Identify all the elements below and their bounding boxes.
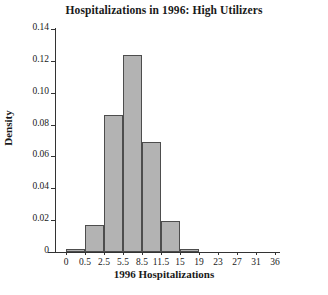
x-axis-tick-mark	[85, 252, 86, 255]
x-axis-tick-label: 23	[213, 257, 223, 267]
x-axis-tick-mark	[199, 252, 200, 255]
x-axis-tick-label: 36	[270, 257, 280, 267]
y-axis-tick-mark	[51, 188, 55, 189]
x-axis-tick-mark	[66, 252, 67, 255]
histogram-bar	[104, 115, 123, 252]
y-axis-tick: 0.04	[0, 188, 55, 189]
x-axis-tick-mark	[123, 252, 124, 255]
x-axis-tick-label: 15	[175, 257, 185, 267]
y-axis-tick-mark	[51, 93, 55, 94]
y-axis-tick: 0.02	[0, 220, 55, 221]
x-axis-tick-mark	[256, 252, 257, 255]
chart-title: Hospitalizations in 1996: High Utilizers	[0, 4, 328, 16]
x-axis-tick-mark	[104, 252, 105, 255]
x-axis-tick-mark	[237, 252, 238, 255]
x-axis-tick-label: 11.5	[153, 257, 169, 267]
y-axis-label: Density	[2, 83, 14, 173]
y-axis-tick-label: 0.02	[32, 213, 49, 223]
x-axis-tick-mark	[218, 252, 219, 255]
y-axis-tick-mark	[51, 156, 55, 157]
x-axis-tick-label: 19	[194, 257, 204, 267]
histogram-bar	[66, 249, 85, 252]
x-axis-tick-mark	[275, 252, 276, 255]
y-axis-tick: 0.14	[0, 29, 55, 30]
x-axis-tick-mark	[161, 252, 162, 255]
y-axis-tick-mark	[51, 61, 55, 62]
y-axis-tick-label: 0.06	[32, 149, 49, 159]
x-axis-tick-label: 27	[232, 257, 242, 267]
y-axis-tick-label: 0.14	[32, 22, 49, 32]
histogram-bar	[123, 55, 142, 253]
y-axis-tick-label: 0.04	[32, 181, 49, 191]
x-axis-line	[48, 252, 280, 253]
y-axis-tick-label: 0.12	[32, 54, 49, 64]
y-axis-tick-label: 0.10	[32, 86, 49, 96]
x-axis-tick-label: 2.5	[98, 257, 110, 267]
y-axis-tick-mark	[51, 29, 55, 30]
x-axis-tick-label: 8.5	[136, 257, 148, 267]
y-axis-tick-label: 0	[44, 245, 49, 255]
x-axis-tick-mark	[142, 252, 143, 255]
y-axis-tick-mark	[51, 252, 55, 253]
y-axis-tick-label: 0.08	[32, 118, 49, 128]
x-axis-tick-label: 0	[64, 257, 69, 267]
histogram-bar	[161, 221, 180, 252]
y-axis-tick-mark	[51, 125, 55, 126]
y-axis-tick: 0	[0, 252, 55, 253]
x-axis-tick-label: 0.5	[79, 257, 91, 267]
plot-area	[56, 29, 280, 252]
x-axis-tick-label: 31	[251, 257, 261, 267]
x-axis-tick-mark	[180, 252, 181, 255]
histogram-bar	[142, 142, 161, 252]
histogram-bar	[180, 249, 199, 252]
y-axis-tick-mark	[51, 220, 55, 221]
x-axis-label: 1996 Hospitalizations	[0, 268, 328, 280]
histogram-chart: Hospitalizations in 1996: High Utilizers…	[0, 0, 328, 295]
histogram-bar	[85, 225, 104, 252]
x-axis-tick-label: 5.5	[117, 257, 129, 267]
y-axis-tick: 0.12	[0, 61, 55, 62]
